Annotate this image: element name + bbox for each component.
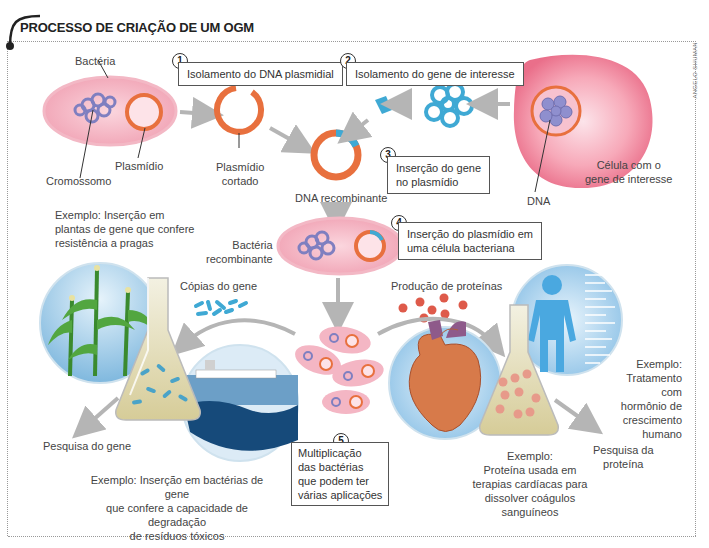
example-proteina-line-4: dissolver coágulos [470, 491, 590, 505]
label-copias-gene: Cópias do gene [180, 279, 257, 293]
isolated-gene-coil [426, 84, 472, 126]
step-1-box: Isolamento do DNA plasmidial [178, 62, 343, 86]
label-bacteria-recombinante: Bactéria recombinante [206, 238, 273, 266]
example-proteina-line-5: sanguíneos [470, 505, 590, 519]
label-dna-recombinante: DNA recombinante [295, 191, 387, 205]
step-5-line-3: que podem ter [298, 474, 382, 488]
example-hormonio-line-5: humano [608, 427, 682, 441]
example-proteina-line-1: Exemplo: [470, 449, 590, 463]
recombinant-bacteria [278, 218, 402, 274]
label-producao-proteinas: Produção de proteínas [391, 279, 502, 293]
multiplied-bacteria [291, 323, 386, 414]
label-pesquisa-proteina-line-2: proteína [593, 457, 654, 471]
gene-copies [196, 301, 246, 314]
label-celula-gene-line-1: Célula com o [585, 158, 672, 172]
example-proteina-line-3: terapias cardíacas para [470, 477, 590, 491]
label-bacteria-recombinante-line-1: Bactéria [206, 238, 273, 252]
label-bacteria: Bactéria [75, 54, 115, 68]
example-hormonio-line-2: Tratamento com [608, 371, 682, 399]
example-bacterias-line-3: de resíduos tóxicos [82, 529, 272, 543]
example-bacterias-line-2: que confere a capacidade de degradação [82, 501, 272, 529]
label-celula-gene-line-2: gene de interesse [585, 172, 672, 186]
label-bacteria-recombinante-line-2: recombinante [206, 252, 273, 266]
step-5-line-1: Multiplicação [298, 446, 382, 460]
oil-spill-circle [182, 345, 298, 461]
step-5-box: Multiplicação das bactérias que podem te… [291, 442, 389, 506]
gene-fragment [375, 96, 392, 114]
example-plantas-line-1: Exemplo: Inserção em [55, 208, 194, 222]
step-4-box: Inserção do plasmídio em uma célula bact… [398, 222, 542, 260]
example-proteina-line-2: Proteína usada em [470, 463, 590, 477]
label-plasmidio-cortado: Plasmídio cortado [216, 160, 264, 188]
example-plantas-line-3: resistência a pragas [55, 236, 194, 250]
example-hormonio-line-1: Exemplo: [608, 357, 682, 371]
step-4-line-2: uma célula bacteriana [407, 241, 533, 255]
example-plantas: Exemplo: Inserção em plantas de gene que… [55, 208, 194, 250]
label-cromossomo: Cromossomo [46, 174, 111, 188]
label-pesquisa-gene: Pesquisa do gene [43, 439, 131, 453]
cut-plasmid [217, 88, 261, 148]
step-4-line-1: Inserção do plasmídio em [407, 227, 533, 241]
example-bacterias-line-1: Exemplo: Inserção em bactérias de gene [82, 473, 272, 501]
example-hormonio-line-4: crescimento [608, 413, 682, 427]
step-3-line-1: Inserção do gene [396, 161, 481, 175]
label-pesquisa-proteina: Pesquisa da proteína [593, 443, 654, 471]
recombinant-dna-ring [314, 133, 358, 177]
step-5-line-2: das bactérias [298, 460, 382, 474]
label-celula-gene: Célula com o gene de interesse [585, 158, 672, 186]
example-hormonio: Exemplo: Tratamento com hormônio de cres… [608, 357, 682, 441]
step-3-line-2: no plasmídio [396, 175, 481, 189]
step-5-line-4: várias aplicações [298, 488, 382, 502]
example-bacterias: Exemplo: Inserção em bactérias de gene q… [82, 473, 272, 543]
label-dna: DNA [527, 194, 550, 208]
label-plasmidio-cortado-line-2: cortado [216, 174, 264, 188]
label-plasmidio-cortado-line-1: Plasmídio [216, 160, 264, 174]
step-2-box: Isolamento do gene de interesse [346, 62, 524, 86]
example-hormonio-line-3: hormônio de [608, 399, 682, 413]
step-3-box: Inserção do gene no plasmídio [387, 156, 490, 194]
example-plantas-line-2: plantas de gene que confere [55, 222, 194, 236]
example-proteina: Exemplo: Proteína usada em terapias card… [470, 449, 590, 519]
label-plasmidio: Plasmídio [115, 159, 163, 173]
label-pesquisa-proteina-line-1: Pesquisa da [593, 443, 654, 457]
